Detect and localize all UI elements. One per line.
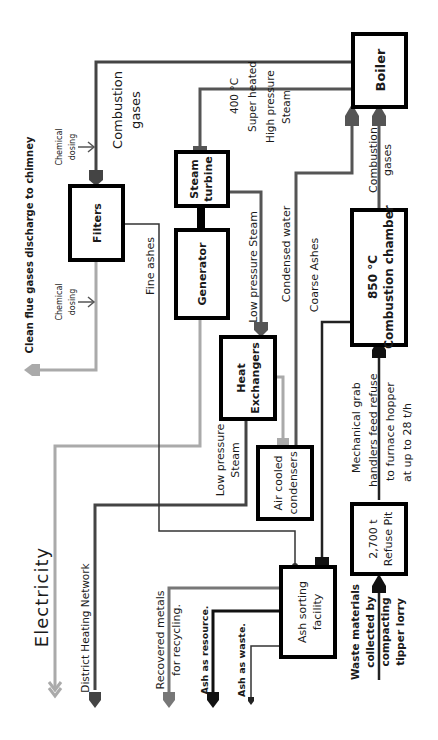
process-flow-diagram: Boiler Steam turbine Generator Filters H…: [0, 0, 438, 740]
chemical-dosing-label-2: Chemical dosing: [55, 283, 77, 320]
svg-text:Combustion: Combustion: [110, 71, 125, 149]
svg-text:dosing: dosing: [68, 289, 77, 316]
waste-materials-label: Waste materials collected by compacting …: [349, 584, 406, 680]
svg-text:High pressure: High pressure: [264, 70, 276, 143]
steam-turbine-node: Steam turbine: [176, 152, 228, 206]
svg-text:collected by: collected by: [364, 596, 376, 668]
chemical-dosing-arrow-1: [78, 142, 94, 152]
svg-text:Refuse Pit: Refuse Pit: [382, 511, 395, 566]
svg-text:Combustion: Combustion: [367, 127, 380, 193]
svg-text:Mechanical grab: Mechanical grab: [350, 382, 363, 473]
hp-steam-label: 400 °C Super heated High pressure Steam: [228, 61, 292, 143]
svg-text:Filters: Filters: [91, 203, 104, 243]
svg-text:400 °C: 400 °C: [228, 78, 240, 114]
svg-text:Air cooled: Air cooled: [272, 456, 285, 511]
electricity-label: Electricity: [31, 547, 52, 647]
svg-text:Ash sorting: Ash sorting: [296, 581, 309, 643]
generator-node: Generator: [176, 230, 228, 318]
chemical-dosing-label-1: Chemical dosing: [55, 128, 77, 165]
svg-text:to furnace hopper: to furnace hopper: [384, 382, 397, 481]
svg-text:850 °C: 850 °C: [366, 255, 380, 299]
svg-text:Generator: Generator: [196, 242, 209, 305]
coarse-ashes-line: [315, 322, 350, 575]
svg-text:turbine: turbine: [202, 156, 215, 201]
turbine-generator-shaft: [197, 206, 205, 230]
svg-text:condensers: condensers: [287, 451, 300, 514]
svg-text:gases: gases: [128, 91, 143, 129]
ash-resource-label: Ash as resource.: [199, 606, 210, 695]
svg-text:Heat: Heat: [235, 363, 248, 392]
svg-text:compacting: compacting: [379, 598, 391, 667]
svg-text:tipper lorry: tipper lorry: [394, 598, 406, 666]
svg-text:Recovered metals: Recovered metals: [154, 590, 167, 689]
ash-waste-line: [248, 646, 281, 705]
fine-ashes-label: Fine ashes: [144, 237, 157, 295]
heat-exchangers-node: Heat Exchangers: [221, 337, 275, 419]
svg-text:Steam: Steam: [229, 442, 242, 478]
clean-flue-label: Clean flue gases discharge to chimney: [24, 136, 35, 353]
condensed-water-label: Condensed water: [280, 205, 293, 302]
district-heating-label: District Heating Network: [79, 562, 91, 692]
svg-text:at up to 28 t/h: at up to 28 t/h: [401, 403, 414, 482]
chemical-dosing-arrow-2: [78, 297, 94, 307]
low-pressure-steam-label: Low pressure Steam: [247, 211, 260, 323]
svg-text:Steam: Steam: [188, 159, 201, 199]
ash-sorting-node: Ash sorting facility: [281, 567, 335, 657]
air-cooled-condensers-node: Air cooled condensers: [258, 447, 312, 519]
svg-text:2,700 t: 2,700 t: [367, 519, 380, 559]
svg-text:handlers feed refuse: handlers feed refuse: [367, 373, 380, 487]
svg-text:Waste materials: Waste materials: [349, 584, 361, 680]
svg-text:gases: gases: [381, 144, 394, 176]
filters-node: Filters: [70, 186, 123, 260]
svg-text:Exchangers: Exchangers: [249, 342, 262, 414]
svg-text:Low pressure: Low pressure: [214, 423, 227, 496]
svg-text:Chemical: Chemical: [55, 128, 64, 165]
ash-waste-label: Ash as waste.: [236, 623, 247, 697]
mechanical-grab-label: Mechanical grab handlers feed refuse to …: [350, 373, 414, 487]
svg-text:Chemical: Chemical: [55, 283, 64, 320]
combustion-chamber-node: 850 °C Combustion chamber: [352, 205, 406, 349]
svg-text:facility: facility: [311, 593, 324, 630]
boiler-label: Boiler: [373, 48, 388, 92]
low-pressure-steam-he-label: Low pressure Steam: [214, 423, 242, 496]
coarse-ashes-label: Coarse Ashes: [308, 238, 321, 313]
refuse-pit-node: 2,700 t Refuse Pit: [352, 504, 406, 574]
boiler-node: Boiler: [353, 34, 406, 107]
svg-text:for recycling.: for recycling.: [170, 604, 183, 676]
combustion-gases-top-label: Combustion gases: [110, 71, 143, 149]
svg-text:Steam: Steam: [280, 90, 292, 124]
svg-text:Combustion chamber: Combustion chamber: [382, 205, 396, 349]
svg-text:dosing: dosing: [68, 134, 77, 161]
he-to-condensers-line: [275, 377, 289, 450]
svg-text:Super heated: Super heated: [246, 61, 258, 132]
